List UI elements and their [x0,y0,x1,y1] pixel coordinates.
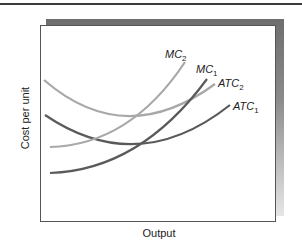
y-axis-label: Cost per unit [19,87,31,149]
mc2-curve [50,62,185,147]
atc1-label: ATC1 [233,100,259,115]
mc2-label: MC2 [165,48,187,63]
mc1-label: MC1 [196,63,218,78]
cost-curves [0,0,302,246]
atc2-curve [44,80,215,116]
atc2-label: ATC2 [218,77,244,92]
x-axis-label: Output [142,227,175,239]
atc1-curve [45,105,230,144]
mc1-curve [50,79,207,173]
